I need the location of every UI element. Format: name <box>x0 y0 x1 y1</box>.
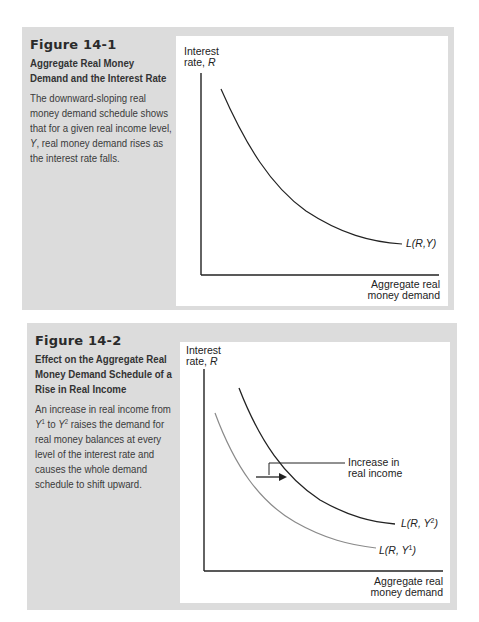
x-axis-label: Aggregate real money demand <box>371 576 443 598</box>
figure-14-1-plot <box>176 36 448 306</box>
figure-number: Figure 14-1 <box>30 37 174 52</box>
figure-14-2-caption: Figure 14-2 Effect on the Aggregate Real… <box>35 333 179 492</box>
figure-title: Effect on the Aggregate Real Money Deman… <box>35 352 179 397</box>
figure-description: The downward-sloping real money demand s… <box>30 91 174 166</box>
figure-14-1-caption: Figure 14-1 Aggregate Real Money Demand … <box>30 37 174 166</box>
figure-title: Aggregate Real Money Demand and the Inte… <box>30 56 174 86</box>
figure-14-2-chart: Interest rate, R Increase in real income… <box>180 342 450 603</box>
figure-14-1-chart: Interest rate, R L(R,Y) Aggregate real m… <box>176 36 448 306</box>
curve-label-L-R-Y1: L(R, Y1) <box>379 544 416 556</box>
demand-curve <box>221 89 402 244</box>
x-axis-label: Aggregate real money demand <box>368 279 440 301</box>
curve-label-L-R-Y: L(R,Y) <box>406 237 436 249</box>
figure-14-1-panel: Figure 14-1 Aggregate Real Money Demand … <box>22 27 454 310</box>
figure-14-2-plot <box>180 342 450 603</box>
figure-number: Figure 14-2 <box>35 333 179 348</box>
annotation-increase-in-real-income: Increase in real income <box>348 457 402 479</box>
shift-arrow-head-icon <box>279 473 287 481</box>
figure-14-2-panel: Figure 14-2 Effect on the Aggregate Real… <box>27 323 457 610</box>
annotation-leader-line <box>269 463 345 475</box>
figure-description: An increase in real income from Y1 to Y2… <box>35 402 179 492</box>
curve-label-L-R-Y2: L(R, Y2) <box>401 517 438 529</box>
